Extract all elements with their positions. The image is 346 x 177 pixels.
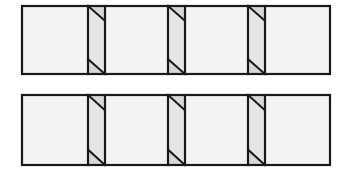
lower-panel-run-bay-2-face bbox=[105, 95, 168, 165]
lower-panel-run-mullion-1 bbox=[88, 95, 105, 165]
upper-panel-run-mullion-1 bbox=[88, 6, 105, 74]
panel-elevation-diagram: Panel Assembly Elevation Two horizontal … bbox=[0, 0, 346, 177]
upper-panel-run-mullion-3 bbox=[248, 6, 265, 74]
upper-panel-run-bay-2-face bbox=[105, 6, 168, 74]
upper-panel-run-mullion-2 bbox=[168, 6, 185, 74]
lower-panel-run bbox=[22, 95, 330, 165]
upper-panel-run-bay-1-face bbox=[22, 6, 88, 74]
lower-panel-run-bay-3-face bbox=[185, 95, 248, 165]
upper-panel-run bbox=[22, 6, 330, 74]
lower-panel-run-bay-1-face bbox=[22, 95, 88, 165]
lower-panel-run-mullion-2 bbox=[168, 95, 185, 165]
lower-panel-run-bay-4-face bbox=[265, 95, 330, 165]
diagram-geometry bbox=[22, 6, 330, 165]
upper-panel-run-bay-3-face bbox=[185, 6, 248, 74]
upper-panel-run-bay-4-face bbox=[265, 6, 330, 74]
panel-elevation-svg bbox=[0, 0, 346, 177]
lower-panel-run-mullion-3 bbox=[248, 95, 265, 165]
